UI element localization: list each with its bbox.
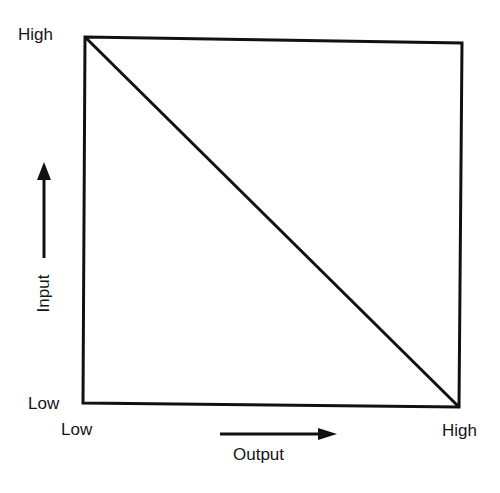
- x-axis-low-label: Low: [61, 421, 92, 438]
- y-axis-high-label: High: [18, 26, 53, 43]
- y-axis-title: Input: [35, 269, 52, 319]
- y-axis-low-label: Low: [28, 395, 59, 412]
- output-arrow-icon: [220, 428, 337, 440]
- input-arrow-icon: [37, 162, 51, 258]
- x-axis-title: Output: [233, 446, 284, 463]
- x-axis-high-label: High: [442, 422, 477, 439]
- tradeoff-diagonal-line: [85, 37, 459, 407]
